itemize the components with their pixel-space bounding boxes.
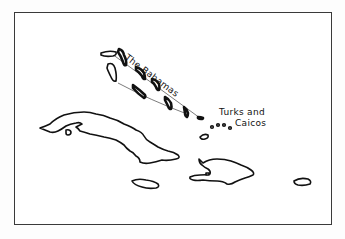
island-great-inagua: [200, 134, 208, 139]
island-caicos-2: [217, 124, 220, 127]
island-isle-of-youth: [66, 130, 71, 135]
island-puerto-rico: [294, 178, 311, 185]
caribbean-map: [0, 0, 345, 239]
island-caicos-1: [211, 126, 214, 129]
island-exuma: [133, 85, 145, 98]
label-caicos: Caicos: [235, 118, 266, 128]
island-grand-bahama: [101, 51, 116, 56]
island-long: [165, 97, 172, 109]
island-hispaniola: [190, 159, 254, 184]
island-jamaica: [132, 179, 159, 188]
island-andros: [107, 64, 116, 82]
island-cuba: [40, 112, 179, 163]
island-caicos-3: [223, 124, 226, 127]
island-mayaguana: [198, 117, 203, 119]
island-caicos-4: [229, 127, 232, 130]
island-gonave: [206, 173, 209, 175]
label-turks-and: Turks and: [219, 107, 265, 117]
